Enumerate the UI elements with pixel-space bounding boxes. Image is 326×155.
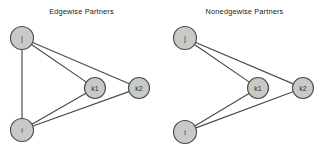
- graph-node-i[interactable]: i: [11, 119, 34, 142]
- panel-edgewise: Edgewise Partners jik1k2: [0, 0, 163, 155]
- graph-node-i[interactable]: i: [174, 121, 197, 144]
- graph-node-k2[interactable]: k2: [129, 78, 150, 99]
- graph-node-k1[interactable]: k1: [248, 78, 269, 99]
- graph-node-j[interactable]: j: [11, 27, 34, 50]
- panel-nonedgewise: Nonedgewise Partners jik1k2: [163, 0, 326, 155]
- graph-node-k2[interactable]: k2: [293, 78, 314, 99]
- graph-nonedgewise: jik1k2: [163, 0, 326, 155]
- graph-node-k1[interactable]: k1: [85, 78, 106, 99]
- graph-edgewise: jik1k2: [0, 0, 163, 155]
- graph-edge: [32, 93, 87, 125]
- graph-edge: [195, 42, 294, 84]
- graph-node-j[interactable]: j: [174, 27, 197, 50]
- node-circle: [129, 78, 150, 99]
- edge-group: [194, 42, 294, 128]
- graph-edge: [194, 44, 250, 82]
- graph-edge: [31, 44, 87, 82]
- graph-edge: [194, 93, 249, 126]
- edge-group: [22, 42, 130, 126]
- graph-edge: [195, 91, 293, 128]
- node-circle: [248, 78, 269, 99]
- node-circle: [174, 121, 197, 144]
- node-circle: [11, 27, 34, 50]
- figure-canvas: Edgewise Partners jik1k2 Nonedgewise Par…: [0, 0, 326, 155]
- node-circle: [85, 78, 106, 99]
- node-circle: [174, 27, 197, 50]
- node-circle: [293, 78, 314, 99]
- node-circle: [11, 119, 34, 142]
